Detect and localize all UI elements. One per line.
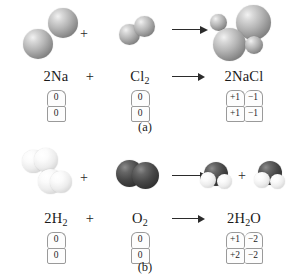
panel-caption-a: (a): [0, 120, 290, 135]
oxidation-cell: +1: [226, 90, 245, 106]
chlorine-molecule-model: [110, 0, 170, 62]
water-oxygen-symbol: O: [250, 210, 261, 226]
sodium-sphere-small: [245, 36, 263, 54]
reactant-label-chlorine: Cl2: [110, 66, 170, 88]
product-label-water: 2H2O: [200, 208, 288, 230]
oxidation-line-top: 0: [47, 90, 66, 106]
oxidation-stack-chlorine: 0 0: [110, 90, 170, 122]
water-subscript: 2: [245, 217, 250, 228]
reaction-panel-a: + 2Na + Cl2: [0, 0, 290, 138]
product-label-sodium-chloride: 2NaCl: [200, 66, 288, 86]
hydrogen-symbol: 2H: [44, 210, 62, 226]
arrow-shaft: [172, 76, 200, 77]
hydrogen-sphere: [254, 172, 270, 188]
chlorine-sphere: [134, 16, 155, 37]
oxidation-stack-sodium-chloride: +1 −1 +1 −1: [200, 90, 288, 122]
oxidation-cell: −1: [245, 90, 263, 106]
chlorine-symbol: Cl: [130, 68, 144, 84]
equation-plus-b: +: [80, 208, 100, 228]
arrow-shaft: [172, 29, 202, 30]
hydrogen-sphere: [34, 148, 58, 172]
oxygen-molecule-model: [110, 144, 170, 206]
hydrogen-sphere: [217, 174, 232, 189]
oxidation-line-top: 0: [131, 90, 150, 106]
art-plus-sign-a: +: [80, 27, 88, 41]
art-plus-sign-b: +: [80, 171, 88, 185]
water-molecules-model: +: [198, 144, 290, 206]
oxygen-subscript: 2: [143, 217, 148, 228]
oxidation-line-top: 0: [47, 232, 66, 248]
oxidation-line-top: 0: [131, 232, 150, 248]
hydrogen-sphere: [200, 172, 216, 188]
oxidation-cell: 0: [131, 232, 150, 248]
hydrogen-sphere: [270, 174, 285, 189]
chlorine-subscript: 2: [144, 75, 149, 86]
equation-row-a: 2Na + Cl2 2NaCl: [0, 66, 290, 88]
oxidation-cell: 0: [131, 90, 150, 106]
sodium-sphere: [48, 8, 78, 38]
molecular-model-row-a: +: [0, 0, 290, 62]
chloride-sphere: [213, 28, 246, 61]
reaction-panel-b: + + 2H2: [0, 138, 290, 276]
oxidation-number-reaction-figure: + 2Na + Cl2: [0, 0, 290, 276]
molecular-model-row-b: + +: [0, 144, 290, 206]
oxygen-sphere: [132, 162, 159, 189]
hydrogen-subscript: 2: [62, 217, 67, 228]
product-plus-sign: +: [238, 169, 246, 183]
oxidation-cell: 0: [47, 232, 66, 248]
oxidation-cell: −2: [245, 232, 263, 248]
reactant-label-oxygen: O2: [110, 208, 170, 230]
oxidation-stack-sodium: 0 0: [16, 90, 96, 122]
sodium-chloride-cluster-model: [200, 0, 288, 62]
arrow-shaft: [172, 218, 200, 219]
water-symbol: 2H: [227, 210, 245, 226]
hydrogen-sphere: [50, 171, 72, 193]
equation-row-b: 2H2 + O2 2H2O: [0, 208, 290, 230]
oxidation-cell: +1: [226, 232, 245, 248]
oxidation-line-top: +1 −1: [226, 90, 263, 106]
oxygen-symbol: O: [132, 210, 143, 226]
sodium-sphere: [23, 29, 53, 59]
panel-caption-b: (b): [0, 260, 290, 275]
oxidation-line-top: +1 −2: [226, 232, 263, 248]
oxidation-cell: 0: [47, 90, 66, 106]
equation-plus-a: +: [80, 66, 100, 86]
